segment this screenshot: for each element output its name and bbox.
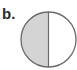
shaded-half: [20, 11, 49, 69]
fraction-circle-diagram: [0, 0, 77, 70]
